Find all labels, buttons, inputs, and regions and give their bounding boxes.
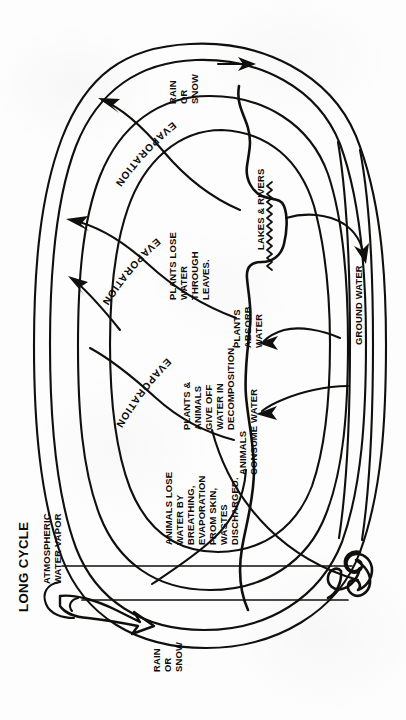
evaporation-arc-1 — [102, 100, 240, 210]
label-line: WATER — [253, 314, 264, 348]
label-line: ANIMALS — [237, 431, 248, 475]
open-arrow-tail-path-2 — [70, 598, 78, 611]
label-atmospheric-water-vapor: ATMOSPHERIC WATER VAPOR — [41, 513, 63, 584]
label-line: BREATHING, — [185, 485, 196, 545]
label-line: RAIN — [151, 648, 162, 672]
label-line: SNOW — [173, 642, 184, 672]
label-line: CONSUME WATER — [248, 389, 259, 475]
page-title: LONG CYCLE — [16, 522, 31, 612]
label-line: PLANTS & — [181, 381, 192, 430]
label-animals-lose-water: ANIMALS LOSE WATER BY BREATHING, EVAPORA… — [163, 472, 240, 545]
label-line: WATER — [178, 266, 189, 300]
outer-loop-path — [34, 44, 386, 648]
arrow-evaporation-2b-head-icon — [68, 276, 88, 296]
label-line: ANIMALS LOSE — [163, 472, 174, 545]
label-line: EVAPORATION — [196, 475, 207, 545]
arrow-evaporation-1-head-icon — [98, 98, 120, 113]
label-ground-water: GROUND WATER — [353, 265, 364, 345]
label-line: ANIMALS — [192, 386, 203, 430]
diagram-canvas: LONG CYCLE ATMOSPHERIC WATER VAPOR RAIN … — [0, 0, 406, 720]
arrow-lakes-to-ground-shaft — [286, 215, 364, 256]
open-arrow-icon — [60, 596, 154, 634]
label-line: THROUGH — [189, 251, 200, 300]
inner-loop-path — [110, 130, 330, 552]
label-line: PLANTS — [231, 309, 242, 348]
label-plants-animals-decomposition: PLANTS & ANIMALS GIVE OFF WATER IN DECOM… — [181, 345, 236, 430]
label-line: SNOW — [189, 74, 200, 104]
svg-text:LAKES & RIVERS: LAKES & RIVERS — [255, 169, 266, 250]
label-line: WASTES — [218, 504, 229, 545]
label-line: WATER VAPOR — [52, 513, 63, 584]
label-line: FROM SKIN, — [207, 488, 218, 545]
label-plants-absorb-water: PLANTS ABSORB WATER — [231, 306, 264, 348]
label-line: OR — [162, 658, 173, 672]
label-line: LEAVES. — [200, 259, 211, 300]
label-plants-lose-water: PLANTS LOSE WATER THROUGH LEAVES. — [167, 232, 211, 300]
label-line: OR — [178, 90, 189, 104]
label-line: ABSORB — [242, 306, 253, 348]
label-lakes-and-rivers: LAKES & RIVERS — [255, 169, 266, 250]
label-line: PLANTS LOSE — [167, 232, 178, 300]
label-animals-consume-water: ANIMALS CONSUME WATER — [237, 389, 259, 475]
label-line: GIVE OFF — [203, 385, 214, 430]
label-rain-or-snow-bottom: RAIN OR SNOW — [151, 642, 184, 672]
label-line: WATER IN — [214, 383, 225, 430]
label-line: DECOMPOSITION. — [225, 345, 236, 430]
label-line: ATMOSPHERIC — [41, 513, 52, 584]
water-cycle-figure: LONG CYCLE ATMOSPHERIC WATER VAPOR RAIN … — [0, 0, 406, 720]
label-evaporation-3: EVAPORATION — [114, 356, 174, 430]
label-line: WATER BY — [174, 494, 185, 545]
label-line: DISCHARGED. — [229, 477, 240, 545]
label-rain-or-snow-top: RAIN OR SNOW — [167, 74, 200, 104]
label-evaporation-2: EVAPORATION — [100, 236, 162, 307]
svg-text:GROUND WATER: GROUND WATER — [353, 265, 364, 345]
label-line: RAIN — [167, 80, 178, 104]
label-evaporation-1: EVAPORATION — [113, 120, 178, 189]
lakes-water-surface-icon — [267, 182, 272, 270]
